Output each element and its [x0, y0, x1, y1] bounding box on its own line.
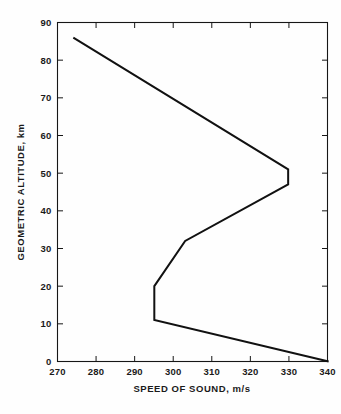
x-axis-ticks-top [96, 23, 289, 29]
x-axis-tick-labels: 270280290300310320330340 [49, 366, 335, 377]
y-tick-label: 70 [41, 92, 52, 103]
plot-frame [58, 23, 328, 362]
y-axis-title: GEOMETRIC ALTITUDE, km [15, 123, 26, 260]
x-axis-title: SPEED OF SOUND, m/s [133, 383, 250, 394]
x-tick-label: 280 [88, 366, 104, 377]
x-tick-label: 300 [165, 366, 181, 377]
y-tick-label: 20 [41, 281, 52, 292]
x-tick-label: 320 [242, 366, 258, 377]
y-axis-ticks-left [58, 60, 64, 324]
y-tick-label: 0 [46, 356, 51, 367]
speed-of-sound-profile-line [73, 38, 328, 362]
y-tick-label: 60 [41, 130, 52, 141]
y-tick-label: 30 [41, 243, 52, 254]
x-tick-label: 310 [204, 366, 220, 377]
y-tick-label: 10 [41, 318, 52, 329]
y-tick-label: 80 [41, 55, 52, 66]
y-tick-label: 90 [41, 17, 52, 28]
x-axis-ticks-bottom [96, 356, 289, 362]
speed-of-sound-chart: 270280290300310320330340 010203040506070… [0, 0, 341, 414]
y-tick-label: 50 [41, 168, 52, 179]
y-tick-label: 40 [41, 205, 52, 216]
x-tick-label: 340 [319, 366, 335, 377]
x-tick-label: 290 [126, 366, 142, 377]
x-tick-label: 270 [49, 366, 65, 377]
y-axis-tick-labels: 0102030405060708090 [41, 17, 52, 367]
figure-container: 270280290300310320330340 010203040506070… [0, 0, 341, 414]
y-axis-ticks-right [322, 60, 328, 324]
x-tick-label: 330 [281, 366, 297, 377]
